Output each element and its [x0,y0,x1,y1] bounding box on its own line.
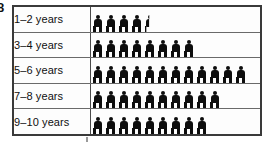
person-icon [158,117,167,134]
person-icon [197,66,206,83]
pictogram-figure: 8 1–2 years [0,0,267,144]
person-icon [119,66,128,83]
pictogram-rows: 1–2 years 3–4 years [14,7,260,134]
table-row: 5–6 years [14,58,260,83]
row-symbols-7-8-years [91,83,261,108]
pictogram-table-container: 1–2 years 3–4 years [12,5,262,136]
person-icon [93,40,102,57]
person-icon [119,40,128,57]
symbol-strip [91,58,260,82]
person-icon [184,91,193,108]
person-icon [184,40,193,57]
person-icon [106,91,115,108]
person-icon [106,15,115,32]
person-icon [184,66,193,83]
person-icon [210,66,219,83]
person-icon [145,40,154,57]
person-icon [223,66,232,83]
person-icon [171,91,180,108]
row-label-3-4-years: 3–4 years [14,32,91,57]
person-icon [158,40,167,57]
half-person-icon [145,15,154,32]
person-icon [236,66,245,83]
person-icon [106,117,115,134]
symbol-strip [91,33,260,57]
row-symbols-9-10-years [91,109,261,134]
person-icon [132,117,141,134]
person-icon [106,66,115,83]
row-label-5-6-years: 5–6 years [14,58,91,83]
row-label-1-2-years: 1–2 years [14,7,91,32]
person-icon [145,66,154,83]
person-icon [171,66,180,83]
symbol-strip [91,7,260,32]
row-label-9-10-years: 9–10 years [14,109,91,134]
person-icon [132,40,141,57]
person-icon [132,91,141,108]
person-icon [210,91,219,108]
person-icon [158,66,167,83]
table-row: 3–4 years [14,32,260,57]
person-icon [132,15,141,32]
page-artifact-mark [86,137,88,142]
row-symbols-5-6-years [91,58,261,83]
person-icon [145,91,154,108]
person-icon [184,117,193,134]
person-icon [119,15,128,32]
person-icon [158,91,167,108]
person-icon [145,117,154,134]
person-icon [93,91,102,108]
person-icon [119,117,128,134]
symbol-strip [91,109,260,134]
table-row: 9–10 years [14,109,260,134]
person-icon [93,15,102,32]
row-label-7-8-years: 7–8 years [14,83,91,108]
question-number: 8 [0,1,4,15]
person-icon [171,117,180,134]
row-symbols-1-2-years [91,7,261,32]
pictogram-table: 1–2 years 3–4 years [14,7,260,134]
person-icon [93,117,102,134]
row-symbols-3-4-years [91,32,261,57]
person-icon [197,117,206,134]
person-icon [132,66,141,83]
person-icon [197,91,206,108]
table-row: 7–8 years [14,83,260,108]
person-icon [119,91,128,108]
person-icon [171,40,180,57]
person-icon [93,66,102,83]
table-row: 1–2 years [14,7,260,32]
symbol-strip [91,84,260,108]
person-icon [106,40,115,57]
